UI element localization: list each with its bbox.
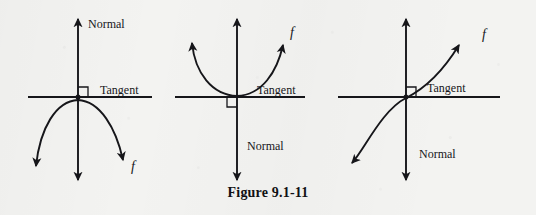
function-curve-1 xyxy=(36,100,123,166)
normal-label-2: Normal xyxy=(247,140,284,152)
normal-label-3: Normal xyxy=(419,148,456,160)
figure-page: Normal Tangent f Normal Tangent f Normal… xyxy=(0,0,536,215)
figure-diagram-canvas xyxy=(0,0,536,215)
concave-up-tangent-diagram xyxy=(175,19,305,180)
normal-label-1: Normal xyxy=(88,18,125,30)
function-label-1: f xyxy=(131,160,135,174)
figure-caption: Figure 9.1-11 xyxy=(0,185,536,201)
concave-down-tangent-diagram xyxy=(28,19,152,180)
tangent-label-3: Tangent xyxy=(427,82,465,94)
tangent-point-3 xyxy=(404,95,409,100)
tangent-label-1: Tangent xyxy=(100,84,138,96)
tangent-point-1 xyxy=(76,95,81,100)
function-label-3: f xyxy=(482,28,486,42)
tangent-label-2: Tangent xyxy=(257,84,295,96)
function-label-2: f xyxy=(290,26,294,40)
right-angle-marker-2 xyxy=(227,97,237,107)
